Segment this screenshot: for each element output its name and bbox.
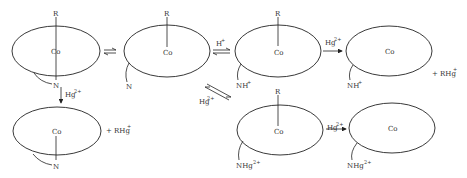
structure-mercurated: R Co NHg 2+ xyxy=(236,88,323,170)
co-label: Co xyxy=(274,49,284,57)
plus-sup: + xyxy=(453,66,457,72)
n-label: N xyxy=(126,83,132,91)
nhg-label: NHg xyxy=(347,162,364,170)
structure-protonated: R Co NH + xyxy=(235,10,321,90)
two-plus-sup: 2+ xyxy=(336,121,343,127)
forward-arrow-hg-1: Hg 2+ xyxy=(323,36,342,51)
forward-arrow-hg-down: Hg 2+ xyxy=(61,87,81,103)
two-plus-sup: 2+ xyxy=(364,159,371,165)
co-label: Co xyxy=(163,49,173,57)
equilibrium-arrow-1 xyxy=(104,48,116,55)
co-label: Co xyxy=(274,128,284,136)
two-plus-sup: 2+ xyxy=(334,36,341,42)
plus-sup: + xyxy=(221,37,225,43)
co-label: Co xyxy=(385,48,395,56)
n-label: N xyxy=(53,163,59,171)
forward-arrow-hg-2: Hg 2+ xyxy=(326,121,346,132)
two-plus-sup: 2+ xyxy=(74,88,81,94)
structure-dealkylated-protonated: Co NH + xyxy=(346,26,432,90)
co-label: Co xyxy=(388,125,398,133)
product-rhg-2: + RHg + xyxy=(106,123,131,135)
plus-sup: + xyxy=(358,79,362,85)
two-plus-sup: 2+ xyxy=(253,159,260,165)
structure-dealkylated-mercurated: Co NHg 2+ xyxy=(347,103,435,170)
n-label: N xyxy=(53,82,59,90)
r-label: R xyxy=(53,10,59,18)
co-label: Co xyxy=(51,48,61,56)
r-label: R xyxy=(164,10,170,18)
nhg-label: NHg xyxy=(236,162,253,170)
co-label: Co xyxy=(52,128,62,136)
plus-sup: + xyxy=(127,123,131,129)
structure-base-on: R Co N xyxy=(12,10,100,90)
equilibrium-arrow-diagonal: Hg 2+ xyxy=(199,84,231,106)
r-label: R xyxy=(275,10,281,18)
reaction-diagram: R Co N R Co N H + R Co NH + xyxy=(0,0,467,178)
r-label: R xyxy=(275,88,281,96)
equilibrium-arrow-h-plus: H + xyxy=(213,37,230,55)
plus-sup: + xyxy=(247,79,251,85)
product-rhg-1: + RHg + xyxy=(432,66,457,78)
structure-dealkylated-base-on: Co N xyxy=(13,107,101,171)
structure-base-off: R Co N xyxy=(124,10,210,91)
two-plus-sup: 2+ xyxy=(207,95,214,101)
